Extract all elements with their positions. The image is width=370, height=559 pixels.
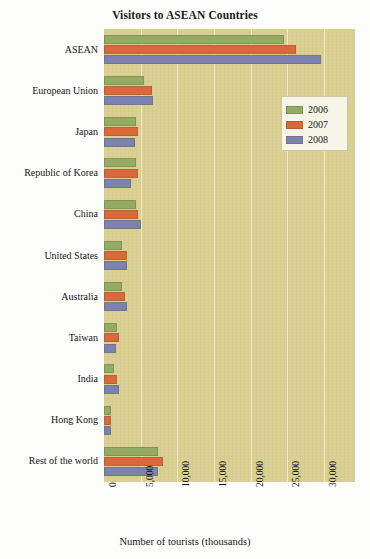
category-label: Rest of the world <box>0 455 98 466</box>
x-tick-label: 5,000 <box>145 466 155 487</box>
chart-figure: Visitors to ASEAN Countries ASEANEuropea… <box>0 0 370 559</box>
gridline <box>214 29 215 482</box>
x-tick-label: 0 <box>108 482 118 487</box>
bar-2006-hong-kong <box>104 406 111 415</box>
legend-swatch-icon <box>286 106 303 114</box>
bar-2007-taiwan <box>104 333 119 342</box>
x-tick-label: 10,000 <box>181 461 191 487</box>
gridline <box>177 29 178 482</box>
bar-2007-asean <box>104 45 296 54</box>
category-label: ASEAN <box>0 44 98 55</box>
bar-2007-european-union <box>104 86 152 95</box>
bar-2008-china <box>104 220 141 229</box>
bar-2008-hong-kong <box>104 426 111 435</box>
bar-2008-australia <box>104 302 127 311</box>
category-label: Hong Kong <box>0 414 98 425</box>
gridline <box>251 29 252 482</box>
bar-2006-european-union <box>104 76 144 85</box>
legend-swatch-icon <box>286 121 303 129</box>
bar-2007-republic-of-korea <box>104 169 138 178</box>
category-label: United States <box>0 250 98 261</box>
bar-2007-hong-kong <box>104 416 111 425</box>
bar-2006-japan <box>104 117 136 126</box>
bar-2006-asean <box>104 35 284 44</box>
bar-2006-rest-of-the-world <box>104 447 158 456</box>
legend-item: 2006 <box>286 102 343 117</box>
chart-legend: 200620072008 <box>281 96 348 151</box>
category-label: India <box>0 373 98 384</box>
category-label: Republic of Korea <box>0 167 98 178</box>
legend-label: 2007 <box>308 119 328 130</box>
legend-label: 2008 <box>308 134 328 145</box>
category-label: China <box>0 208 98 219</box>
bar-2008-taiwan <box>104 344 116 353</box>
bar-2006-republic-of-korea <box>104 158 136 167</box>
x-tick-label: 30,000 <box>328 461 338 487</box>
x-axis-title: Number of tourists (thousands) <box>0 536 370 547</box>
bar-2007-australia <box>104 292 125 301</box>
category-label: European Union <box>0 85 98 96</box>
bar-2007-united-states <box>104 251 127 260</box>
bar-2006-china <box>104 200 136 209</box>
x-tick-label: 20,000 <box>255 461 265 487</box>
category-label: Japan <box>0 126 98 137</box>
bar-2008-european-union <box>104 96 153 105</box>
bar-2007-rest-of-the-world <box>104 457 163 466</box>
legend-item: 2008 <box>286 132 343 147</box>
bar-2006-india <box>104 364 114 373</box>
legend-item: 2007 <box>286 117 343 132</box>
bar-2006-australia <box>104 282 122 291</box>
x-tick-label: 15,000 <box>218 461 228 487</box>
bar-2008-asean <box>104 55 321 64</box>
bar-2007-india <box>104 375 117 384</box>
legend-swatch-icon <box>286 136 303 144</box>
chart-title: Visitors to ASEAN Countries <box>0 9 370 21</box>
legend-label: 2006 <box>308 104 328 115</box>
bar-2008-japan <box>104 138 135 147</box>
bar-2007-china <box>104 210 138 219</box>
bar-2007-japan <box>104 127 138 136</box>
bar-2006-taiwan <box>104 323 117 332</box>
category-label: Taiwan <box>0 332 98 343</box>
bar-2006-united-states <box>104 241 122 250</box>
bar-2008-united-states <box>104 261 127 270</box>
x-tick-label: 25,000 <box>291 461 301 487</box>
category-label: Australia <box>0 291 98 302</box>
bar-2008-republic-of-korea <box>104 179 131 188</box>
bar-2008-india <box>104 385 119 394</box>
